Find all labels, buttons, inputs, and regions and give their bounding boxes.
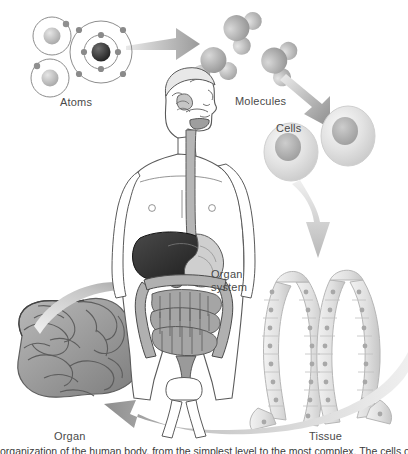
organization-diagram [0, 0, 408, 454]
label-organ-system: Organ system [211, 268, 247, 293]
label-atoms: Atoms [60, 96, 92, 109]
cell-1 [321, 106, 375, 166]
label-molecules: Molecules [235, 95, 286, 108]
label-organ: Organ [54, 430, 86, 443]
label-cells: Cells [276, 122, 301, 135]
small-intestine-coils [150, 290, 221, 356]
figure-caption-partial: organization of the human body, from the… [0, 446, 408, 454]
organ-intestines [18, 299, 142, 398]
label-tissue: Tissue [309, 430, 342, 443]
figure-canvas [0, 0, 408, 454]
